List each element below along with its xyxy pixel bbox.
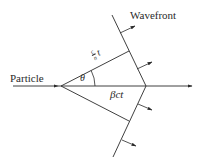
wavefront-label: Wavefront: [130, 10, 176, 21]
cherenkov-diagram: Particle Wavefront θ βct c n t: [0, 0, 197, 163]
theta-label: θ: [80, 73, 85, 83]
upper-propagation-arrow-2: [137, 62, 152, 69]
upper-propagation-arrow-1: [120, 26, 135, 33]
particle-distance-label: βct: [110, 89, 123, 100]
theta-angle-arc: [91, 71, 95, 86]
particle-label: Particle: [10, 73, 44, 84]
lower-propagation-arrow-2: [122, 140, 136, 146]
upper-wavefront-line: [112, 15, 146, 86]
lower-propagation-arrow-1: [138, 104, 152, 110]
